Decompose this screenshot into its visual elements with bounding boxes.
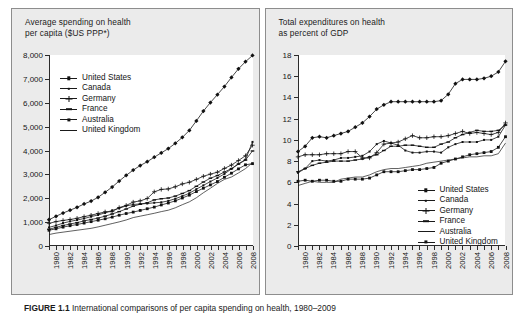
legend-marker-icon: [418, 196, 435, 206]
chart-panels: Average spending on health per capita ($…: [11, 8, 513, 295]
x-tick-label: 2002: [207, 252, 216, 269]
series-united-states: [295, 59, 507, 153]
legend-label: Australia: [440, 227, 472, 237]
x-tick-label: 2004: [473, 252, 482, 269]
legend-item-germany: Germany: [418, 206, 498, 216]
y-tick-label: 4,000: [23, 146, 43, 155]
caption-label: FIGURE 1.1: [24, 303, 70, 313]
x-tick-label: 1988: [108, 252, 117, 269]
x-tick-label: 1986: [94, 252, 103, 269]
panel-title-right: Total expenditures on health as percent …: [279, 17, 386, 39]
x-tick: [126, 246, 127, 250]
x-tick: [190, 246, 191, 250]
x-tick: [333, 246, 334, 250]
x-tick: [412, 246, 413, 250]
series-canada: [297, 124, 506, 174]
legend-marker-icon: [418, 206, 435, 216]
x-tick: [369, 246, 370, 250]
series-united-kingdom: [296, 135, 506, 182]
y-tick-label: 8: [287, 157, 291, 166]
legend-label: United Kingdom: [82, 125, 140, 135]
x-tick-label: 1992: [387, 252, 396, 269]
y-tick-label: 16: [283, 72, 292, 81]
x-tick-label: 2002: [458, 252, 467, 269]
x-tick: [298, 246, 299, 250]
x-tick-label: 2008: [502, 252, 511, 269]
y-tick-label: 2: [287, 220, 291, 229]
series-canada: [48, 141, 253, 228]
legend-marker-icon: [60, 104, 77, 114]
y-tick-label: 8,000: [23, 51, 43, 60]
x-tick: [119, 246, 120, 250]
x-tick-label: 1996: [415, 252, 424, 269]
x-tick: [162, 246, 163, 250]
panel-percent-gdp: Total expenditures on health as percent …: [265, 8, 514, 295]
x-tick: [105, 246, 106, 250]
x-tick: [312, 246, 313, 250]
x-tick: [341, 246, 342, 250]
x-tick: [362, 246, 363, 250]
x-tick-label: 1984: [329, 252, 338, 269]
x-tick-label: 1984: [80, 252, 89, 269]
x-tick: [348, 246, 349, 250]
x-tick: [77, 246, 78, 250]
x-tick: [225, 246, 226, 250]
legend-label: Canada: [440, 195, 469, 205]
x-tick-label: 2004: [221, 252, 230, 269]
legend-item-united-kingdom: United Kingdom: [418, 237, 498, 247]
legend-label: Germany: [440, 206, 474, 216]
legend-item-canada: Canada: [60, 83, 140, 93]
figure-container: Average spending on health per capita ($…: [0, 0, 524, 317]
y-tick-label: 5,000: [23, 122, 43, 131]
legend-marker-icon: [418, 216, 435, 226]
x-tick: [376, 246, 377, 250]
x-tick-label: 1982: [66, 252, 75, 269]
x-tick: [305, 246, 306, 250]
x-tick: [319, 246, 320, 250]
x-tick-label: 1996: [165, 252, 174, 269]
x-tick-label: 1992: [137, 252, 146, 269]
y-tick-label: 18: [283, 51, 292, 60]
y-tick-label: 7,000: [23, 74, 43, 83]
legend-label: France: [440, 216, 465, 226]
legend-marker-icon: [60, 73, 77, 83]
legend-marker-icon: [60, 125, 77, 135]
y-tick-label: 10: [283, 135, 292, 144]
x-tick: [232, 246, 233, 250]
y-tick-label: 2,000: [23, 194, 43, 203]
legend-item-united-kingdom: United Kingdom: [60, 125, 140, 135]
x-tick-label: 2006: [487, 252, 496, 269]
x-tick: [70, 246, 71, 250]
legend-label: France: [82, 104, 107, 114]
legend-item-australia: Australia: [418, 227, 498, 237]
caption-text: International comparisons of per capita …: [72, 303, 336, 313]
x-tick: [498, 246, 499, 250]
x-tick-label: 2000: [444, 252, 453, 269]
legend-marker-icon: [418, 237, 435, 247]
x-tick: [204, 246, 205, 250]
x-tick: [384, 246, 385, 250]
x-tick: [63, 246, 64, 250]
x-tick: [133, 246, 134, 250]
legend-item-united-states: United States: [60, 73, 140, 83]
series-france: [296, 124, 507, 172]
x-tick: [218, 246, 219, 250]
x-tick: [326, 246, 327, 250]
x-tick: [49, 246, 50, 250]
y-tick-label: 12: [283, 114, 292, 123]
x-tick: [140, 246, 141, 250]
x-tick: [169, 246, 170, 250]
x-tick-label: 1982: [315, 252, 324, 269]
x-tick: [56, 246, 57, 250]
panel-title-left: Average spending on health per capita ($…: [25, 17, 131, 39]
x-tick: [197, 246, 198, 250]
legend-item-france: France: [60, 104, 140, 114]
x-tick: [91, 246, 92, 250]
legend-left: United StatesCanadaGermanyFranceAustrali…: [60, 73, 140, 135]
x-tick: [112, 246, 113, 250]
y-tick-label: 4: [287, 199, 291, 208]
x-tick: [405, 246, 406, 250]
y-tick-label: 1,000: [23, 218, 43, 227]
x-tick-label: 1990: [123, 252, 132, 269]
legend-label: Australia: [82, 115, 114, 125]
